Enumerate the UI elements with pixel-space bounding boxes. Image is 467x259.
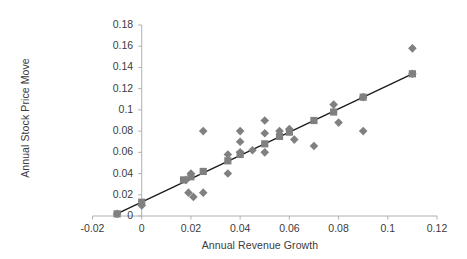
y-tick-label: 0.12: [87, 82, 133, 94]
x-tick-label: 0: [119, 222, 165, 234]
y-tick-label: 0.02: [87, 188, 133, 200]
y-tick-label: 0.18: [87, 18, 133, 30]
x-tick-label: 0.04: [217, 222, 263, 234]
data-point-diamond: [199, 127, 208, 136]
plot-area: [0, 0, 467, 259]
data-point-square: [237, 151, 244, 158]
data-point-diamond: [248, 146, 257, 155]
data-point-diamond: [329, 100, 338, 109]
data-point-square: [180, 176, 187, 183]
data-point-diamond: [260, 116, 269, 125]
data-points: [113, 44, 417, 218]
data-point-square: [310, 117, 317, 124]
x-tick-label: -0.02: [70, 222, 116, 234]
data-point-square: [286, 129, 293, 136]
scatter-chart: 00.020.040.060.080.10.120.140.160.18 -0.…: [0, 0, 467, 259]
data-point-diamond: [334, 118, 343, 127]
y-tick-label: 0.04: [87, 167, 133, 179]
data-point-square: [200, 168, 207, 175]
data-point-diamond: [236, 127, 245, 136]
data-point-diamond: [290, 135, 299, 144]
x-tick-label: 0.08: [316, 222, 362, 234]
data-point-diamond: [408, 44, 417, 53]
x-axis-title: Annual Revenue Growth: [100, 239, 420, 251]
y-tick-label: 0.06: [87, 145, 133, 157]
data-point-diamond: [260, 129, 269, 138]
data-point-square: [409, 70, 416, 77]
data-point-square: [330, 108, 337, 115]
x-tick-label: 0.1: [365, 222, 411, 234]
data-point-square: [261, 140, 268, 147]
y-tick-label: 0.08: [87, 124, 133, 136]
data-point-diamond: [260, 148, 269, 157]
x-tick-label: 0.02: [168, 222, 214, 234]
data-point-diamond: [359, 127, 368, 136]
data-point-diamond: [224, 169, 233, 178]
x-tick-label: 0.12: [414, 222, 460, 234]
data-point-square: [360, 94, 367, 101]
data-point-diamond: [199, 188, 208, 197]
data-point-square: [224, 157, 231, 164]
data-point-diamond: [310, 142, 319, 151]
data-point-square: [187, 173, 194, 180]
data-point-square: [138, 199, 145, 206]
y-tick-label: 0: [87, 209, 133, 221]
y-tick-label: 0.16: [87, 39, 133, 51]
x-tick-label: 0.06: [266, 222, 312, 234]
data-point-square: [276, 133, 283, 140]
data-point-diamond: [236, 137, 245, 146]
y-axis-title: Annual Stock Price Move: [19, 38, 31, 198]
y-tick-label: 0.1: [87, 103, 133, 115]
y-tick-label: 0.14: [87, 60, 133, 72]
